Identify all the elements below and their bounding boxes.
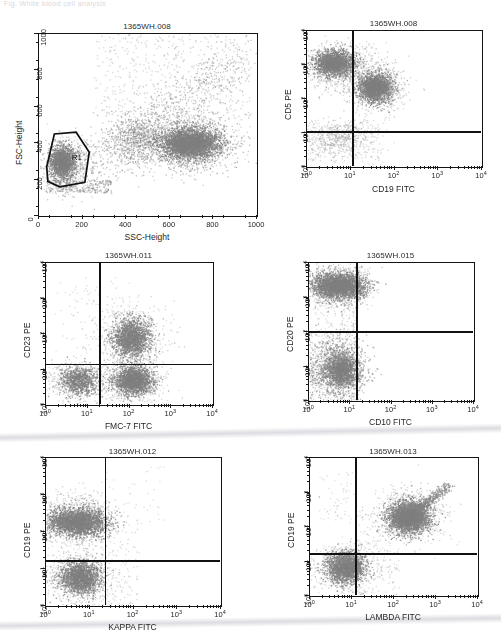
x-minor-tick: [422, 595, 423, 598]
plot-title: 1365WH.013: [309, 447, 477, 456]
x-tick-label: 103: [429, 600, 440, 609]
x-minor-tick: [386, 595, 387, 598]
y-minor-tick: [307, 510, 310, 511]
y-tick-exponent: 3: [303, 490, 309, 493]
y-tick-label: 100: [304, 594, 313, 605]
y-minor-tick: [307, 544, 310, 545]
x-minor-tick: [384, 595, 385, 598]
x-minor-tick: [380, 595, 381, 598]
y-minor-tick: [307, 475, 310, 476]
x-minor-tick: [468, 595, 469, 598]
x-minor-tick: [433, 595, 434, 598]
y-minor-tick: [307, 481, 310, 482]
y-minor-tick: [307, 536, 310, 537]
x-minor-tick: [418, 595, 419, 598]
x-tick-exponent: 3: [438, 599, 441, 605]
x-minor-tick: [464, 595, 465, 598]
x-major-tick: [435, 595, 436, 599]
x-minor-tick: [428, 595, 429, 598]
x-minor-tick: [406, 595, 407, 598]
y-minor-tick: [307, 550, 310, 551]
x-tick-label: 104: [471, 600, 482, 609]
x-minor-tick: [344, 595, 345, 598]
y-tick-base: 10: [304, 528, 313, 536]
y-tick-base: 10: [304, 459, 313, 467]
y-tick-base: 10: [304, 562, 313, 570]
y-minor-tick: [307, 540, 310, 541]
y-tick-exponent: 0: [303, 594, 309, 597]
x-minor-tick: [473, 595, 474, 598]
dot-cloud: [310, 458, 478, 596]
y-tick-exponent: 1: [303, 559, 309, 562]
y-minor-tick: [307, 505, 310, 506]
y-minor-tick: [307, 467, 310, 468]
y-tick-label: 101: [304, 559, 313, 570]
y-minor-tick: [307, 516, 310, 517]
x-minor-tick: [448, 595, 449, 598]
x-axis-label: LAMBDA FITC: [309, 612, 477, 622]
x-minor-tick: [475, 595, 476, 598]
x-minor-tick: [470, 595, 471, 598]
x-minor-tick: [376, 595, 377, 598]
y-tick-base: 10: [304, 493, 313, 501]
y-minor-tick: [307, 471, 310, 472]
y-minor-tick: [307, 574, 310, 575]
x-major-tick: [393, 595, 394, 599]
y-tick-exponent: 2: [303, 525, 309, 528]
y-tick-label: 102: [304, 525, 313, 536]
x-minor-tick: [389, 595, 390, 598]
x-minor-tick: [364, 595, 365, 598]
quadrant-line-horizontal[interactable]: [309, 553, 477, 555]
x-minor-tick: [338, 595, 339, 598]
x-minor-tick: [431, 595, 432, 598]
x-minor-tick: [342, 595, 343, 598]
x-minor-tick: [349, 595, 350, 598]
x-minor-tick: [322, 595, 323, 598]
x-tick-exponent: 2: [396, 599, 399, 605]
x-minor-tick: [426, 595, 427, 598]
y-axis-label: CD19 PE: [286, 513, 296, 548]
x-tick-exponent: 1: [354, 599, 357, 605]
x-minor-tick: [329, 595, 330, 598]
y-tick-base: 10: [304, 597, 313, 605]
plot-panel-cd19-lambda-scatter: 1365WH.013LAMBDA FITCCD19 PE100101102103…: [0, 0, 501, 637]
x-minor-tick: [371, 595, 372, 598]
y-minor-tick: [307, 585, 310, 586]
y-tick-exponent: 4: [303, 456, 309, 459]
y-minor-tick: [307, 579, 310, 580]
y-tick-label: 103: [304, 490, 313, 501]
x-tick-label: 101: [345, 600, 356, 609]
quadrant-line-vertical[interactable]: [355, 457, 357, 595]
x-minor-tick: [460, 595, 461, 598]
y-tick-label: 104: [304, 456, 313, 467]
plot-frame: [309, 457, 479, 597]
x-tick-exponent: 4: [480, 599, 483, 605]
flow-cytometry-figure: Fig. White blood cell analysis 1365WH.00…: [0, 0, 501, 637]
x-minor-tick: [334, 595, 335, 598]
x-tick-label: 102: [387, 600, 398, 609]
x-minor-tick: [391, 595, 392, 598]
x-minor-tick: [413, 595, 414, 598]
x-major-tick: [351, 595, 352, 599]
x-major-tick: [477, 595, 478, 599]
x-minor-tick: [347, 595, 348, 598]
x-minor-tick: [455, 595, 456, 598]
